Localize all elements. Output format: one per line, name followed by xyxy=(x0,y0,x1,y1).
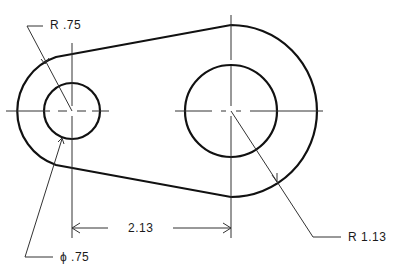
drawing-svg xyxy=(0,0,393,268)
right-centerlines xyxy=(175,15,323,238)
label-r113: R 1.13 xyxy=(348,231,386,243)
label-2-13: 2.13 xyxy=(128,222,153,234)
label-r75: R .75 xyxy=(50,19,81,31)
label-dia75: ϕ .75 xyxy=(60,251,89,263)
leader-dia75 xyxy=(25,138,64,257)
leader-r113 xyxy=(231,111,341,237)
left-centerlines xyxy=(6,43,109,238)
drawing-canvas: R .75 ϕ .75 2.13 R 1.13 xyxy=(0,0,393,268)
leader-r75 xyxy=(27,26,72,111)
